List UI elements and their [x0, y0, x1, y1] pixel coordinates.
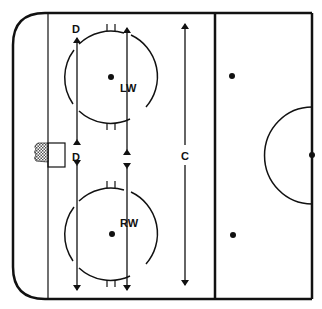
- label-right-wing: RW: [120, 217, 139, 229]
- faceoff-dot-top: [108, 74, 114, 80]
- goal-net: [35, 143, 49, 162]
- faceoff-dot-bottom: [109, 231, 115, 237]
- center-circle: [265, 107, 312, 204]
- label-defense-bottom: D: [72, 151, 80, 163]
- label-defense-top: D: [72, 23, 80, 35]
- label-left-wing: LW: [120, 82, 137, 94]
- neutral-dot-bottom: [230, 232, 236, 238]
- center-faceoff-dot: [309, 152, 315, 158]
- label-center: C: [181, 150, 189, 162]
- goal-crease: [48, 143, 65, 167]
- rink-boards: [13, 13, 312, 299]
- neutral-dot-top: [229, 73, 235, 79]
- faceoff-circle-top: [65, 24, 158, 130]
- faceoff-circle-bottom: [65, 181, 158, 287]
- hockey-rink-diagram: D D LW RW C: [0, 0, 322, 309]
